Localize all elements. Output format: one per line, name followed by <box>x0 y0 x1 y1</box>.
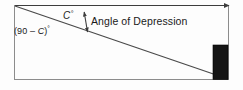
diagram-canvas <box>0 0 243 90</box>
angle-of-depression-label: Angle of Depression <box>91 16 187 27</box>
degree-symbol-icon: ° <box>47 25 50 32</box>
double-headed-angle-arrow <box>84 12 87 32</box>
angle-of-depression-figure: C° (90 – C)° Angle of Depression <box>0 0 243 90</box>
degree-symbol-icon: ° <box>70 9 73 18</box>
complement-angle-label: (90 – C)° <box>14 26 50 36</box>
angle-c-label: C° <box>63 10 74 21</box>
tower-rectangle <box>213 45 228 80</box>
